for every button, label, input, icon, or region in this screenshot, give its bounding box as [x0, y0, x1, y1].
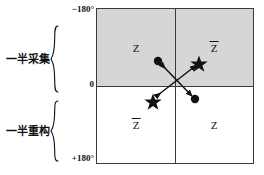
axis-label-zero: 0	[90, 80, 95, 89]
brace-acquisition-icon	[50, 25, 59, 93]
arrow-star-pair	[158, 67, 194, 95]
marker-circle-upper-left	[154, 57, 162, 65]
axis-label-plus-180: +180°	[72, 154, 94, 163]
side-label-reconstruction-group: 一半重构	[6, 100, 59, 162]
axis-label-minus-180: −180°	[72, 5, 94, 14]
side-label-acquisition-group: 一半采集	[6, 25, 59, 93]
marker-star-lower-left	[144, 94, 161, 110]
side-label-reconstruction-text: 一半重构	[6, 126, 50, 137]
phase-diagram-figure: 一半采集 一半重构 −180° 0 +180° Z Z Z	[0, 0, 264, 175]
plot-area: Z Z Z Z	[96, 8, 254, 164]
side-label-acquisition-text: 一半采集	[6, 54, 50, 65]
marker-circle-lower-right	[191, 95, 199, 103]
brace-reconstruction-icon	[50, 100, 59, 162]
marker-star-upper-right	[190, 56, 207, 72]
markers-and-arrows-overlay	[97, 9, 255, 165]
